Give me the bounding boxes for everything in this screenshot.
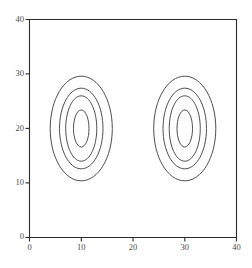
y-tick-label-10: 10 (16, 177, 25, 187)
y-tick-label-40: 40 (16, 14, 25, 24)
x-tick-label-30: 30 (181, 242, 190, 252)
x-tick-label-0: 0 (27, 242, 31, 252)
y-tick-label-30: 30 (16, 68, 25, 78)
x-tick-label-40: 40 (232, 242, 241, 252)
plot-background (0, 0, 252, 268)
x-tick-label-10: 10 (77, 242, 86, 252)
contour-plot-canvas: 0 10 20 30 40 0 10 20 30 40 (0, 0, 252, 268)
x-tick-label-20: 20 (129, 242, 138, 252)
contour-plot-figure: 0 10 20 30 40 0 10 20 30 40 (0, 0, 252, 268)
y-tick-label-20: 20 (16, 123, 25, 133)
y-tick-label-0: 0 (20, 231, 24, 241)
